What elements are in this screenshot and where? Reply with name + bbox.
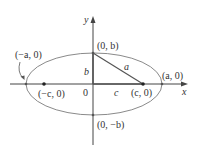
left-vertex-dot (25, 83, 28, 86)
left-vertex-label: (−a, 0) (15, 49, 42, 61)
leader-arrow (19, 62, 23, 78)
left-focus-label: (−c, 0) (38, 88, 65, 100)
top-vertex-label: (0, b) (97, 40, 119, 52)
right-focus-label: (c, 0) (131, 87, 152, 99)
x-axis-label: x (181, 86, 187, 97)
focus-left-dot (42, 82, 46, 86)
segment-b-label: b (84, 66, 89, 77)
segment-c-label: c (114, 87, 119, 98)
ellipse-diagram: y x 0 (0, b) (0, −b) (a, 0) (−a, 0) (c, … (0, 0, 198, 145)
bottom-vertex-dot (92, 114, 95, 117)
y-axis-label: y (83, 14, 89, 25)
origin-label: 0 (83, 87, 88, 98)
right-vertex-label: (a, 0) (162, 70, 183, 82)
right-vertex-dot (161, 83, 164, 86)
segment-a-label: a (124, 61, 129, 72)
hypotenuse-a (93, 53, 143, 84)
y-axis-arrow-icon (91, 16, 96, 23)
focus-right-dot (141, 82, 145, 86)
top-vertex-dot (92, 52, 95, 55)
bottom-vertex-label: (0, −b) (97, 119, 124, 131)
